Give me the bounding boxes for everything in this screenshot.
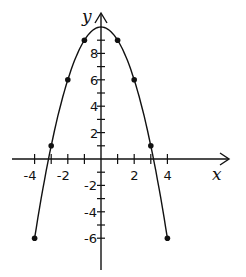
- y-axis-label: y: [81, 6, 92, 26]
- parabola-chart: -4-224-6-4-22468 y x: [0, 0, 246, 277]
- x-tick-label: -2: [57, 168, 70, 183]
- data-point: [82, 37, 88, 43]
- data-point: [165, 235, 171, 241]
- y-tick-label: -6: [84, 231, 97, 246]
- data-point: [32, 235, 38, 241]
- data-point: [115, 37, 121, 43]
- y-tick-label: -2: [84, 178, 97, 193]
- x-tick-label: 2: [130, 168, 138, 183]
- data-point: [48, 143, 54, 149]
- y-tick-label: -4: [84, 205, 97, 220]
- data-point: [148, 143, 154, 149]
- y-tick-label: 6: [90, 73, 98, 88]
- x-axis-label: x: [212, 164, 222, 184]
- y-tick-label: 2: [90, 126, 98, 141]
- data-point: [131, 77, 137, 83]
- y-tick-label: 4: [90, 99, 98, 114]
- axes: [12, 13, 229, 270]
- x-tick-label: -4: [24, 168, 37, 183]
- y-tick-label: 8: [90, 46, 98, 61]
- x-tick-label: 4: [163, 168, 171, 183]
- data-point: [65, 77, 71, 83]
